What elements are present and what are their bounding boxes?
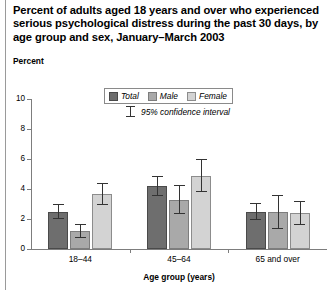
y-axis-tick-mark [27, 159, 31, 160]
error-bar-cap-total-1-low [152, 195, 163, 196]
error-bar-cap-total-2-low [250, 219, 261, 220]
y-axis-tick-mark [27, 189, 31, 190]
error-bar-cap-male-2-high [272, 195, 283, 196]
error-bar-cap-female-2-high [294, 201, 305, 202]
plot-area: 024681018–4445–6465 and over [31, 99, 327, 249]
error-bar-cap-total-1-high [152, 176, 163, 177]
x-axis-group-label: 45–64 [130, 254, 229, 264]
y-axis-tick-label: 8 [20, 124, 25, 134]
error-bar-line-total-1 [157, 176, 158, 196]
error-bar-line-total-2 [256, 203, 257, 220]
error-bar-cap-female-1-high [196, 159, 207, 160]
y-axis-tick-label: 2 [20, 214, 25, 224]
y-axis-unit-label: Percent [13, 56, 44, 66]
y-axis-tick-mark [27, 219, 31, 220]
x-axis-group-label: 65 and over [228, 254, 327, 264]
y-axis-tick-label: 6 [20, 154, 25, 164]
error-bar-cap-female-0-high [97, 183, 108, 184]
error-bar-cap-male-1-low [174, 213, 185, 214]
error-bar-line-total-0 [58, 204, 59, 218]
x-axis-line [31, 249, 327, 250]
error-bar-line-male-2 [278, 195, 279, 228]
left-border-rule [5, 0, 6, 290]
x-axis-separator-tick [228, 249, 229, 253]
y-axis-tick-mark [27, 129, 31, 130]
x-axis-separator-tick [130, 249, 131, 253]
error-bar-cap-male-2-low [272, 228, 283, 229]
chart-title: Percent of adults aged 18 years and over… [13, 4, 321, 44]
y-axis-tick-mark [27, 99, 31, 100]
y-axis-tick-label: 10 [16, 94, 25, 104]
error-bar-line-female-0 [102, 183, 103, 204]
error-bar-cap-female-2-low [294, 224, 305, 225]
y-axis-tick-mark [27, 249, 31, 250]
error-bar-cap-total-2-high [250, 203, 261, 204]
y-axis-line [31, 99, 32, 249]
error-bar-cap-female-0-low [97, 204, 108, 205]
error-bar-cap-total-0-high [53, 204, 64, 205]
x-axis-title: Age group (years) [31, 272, 327, 282]
error-bar-line-male-1 [179, 185, 180, 214]
error-bar-cap-female-1-low [196, 191, 207, 192]
error-bar-line-female-1 [201, 159, 202, 191]
error-bar-cap-total-0-low [53, 218, 64, 219]
x-axis-group-label: 18–44 [31, 254, 130, 264]
error-bar-cap-male-0-high [75, 224, 86, 225]
error-bar-line-female-2 [300, 201, 301, 224]
error-bar-cap-male-1-high [174, 185, 185, 186]
error-bar-line-male-0 [80, 224, 81, 238]
error-bar-cap-male-0-low [75, 237, 86, 238]
y-axis-tick-label: 4 [20, 184, 25, 194]
chart-figure: Percent of adults aged 18 years and over… [0, 0, 333, 290]
y-axis-tick-label: 0 [20, 244, 25, 254]
